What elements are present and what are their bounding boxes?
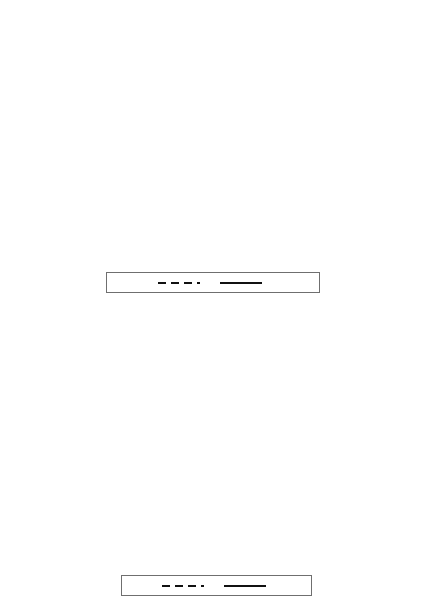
chart-panel-birth-death [0, 0, 423, 300]
legend-item-legitimate[interactable] [155, 585, 217, 587]
legend-legitimacy [121, 575, 312, 596]
legend-item-illegitimate[interactable] [217, 585, 279, 587]
plot-area-birth-death [0, 0, 423, 270]
legend-item-death-rate[interactable] [213, 282, 275, 284]
legend-birth-death [106, 272, 320, 293]
plot-area-legitimacy [0, 300, 423, 570]
legend-swatch-dashed-icon [158, 282, 200, 284]
legend-swatch-solid-icon [220, 282, 262, 284]
legend-swatch-dashed-icon [162, 585, 204, 587]
legend-swatch-solid-icon [224, 585, 266, 587]
legend-item-birth-rate[interactable] [151, 282, 213, 284]
chart-panel-legitimacy [0, 300, 423, 605]
figure-container [0, 0, 423, 605]
